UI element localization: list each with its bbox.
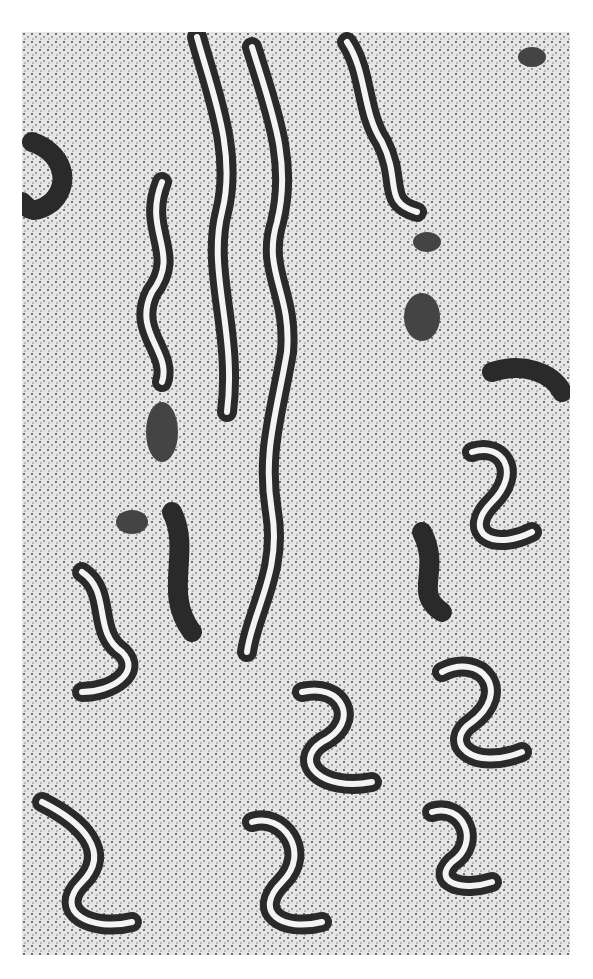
histology-micrograph xyxy=(22,32,570,955)
